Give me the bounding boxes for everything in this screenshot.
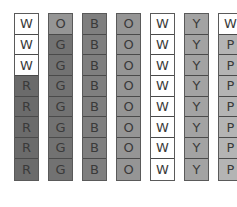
grid-cell: W <box>151 35 174 56</box>
grid-column-5: WWWWWWWW <box>150 13 175 181</box>
grid-cell: G <box>49 159 72 180</box>
grid-cell: Y <box>185 138 208 159</box>
grid-column-2: OGGGGGGG <box>48 13 73 181</box>
grid-cell: W <box>151 55 174 76</box>
grid-cell: B <box>83 97 106 118</box>
grid-column-7: WPPPPPPP <box>218 13 237 181</box>
grid-cell: W <box>219 14 237 35</box>
grid-cell: O <box>117 138 140 159</box>
grid-cell: P <box>219 97 237 118</box>
grid-cell: B <box>83 55 106 76</box>
grid-cell: B <box>83 138 106 159</box>
grid-cell: R <box>15 97 38 118</box>
grid-cell: B <box>83 14 106 35</box>
grid-cell: P <box>219 159 237 180</box>
grid-cell: W <box>151 138 174 159</box>
grid-cell: P <box>219 35 237 56</box>
grid-cell: O <box>117 76 140 97</box>
grid-cell: P <box>219 138 237 159</box>
grid-cell: G <box>49 97 72 118</box>
grid-cell: W <box>151 117 174 138</box>
grid-cell: Y <box>185 55 208 76</box>
grid-cell: R <box>15 159 38 180</box>
grid-cell: W <box>15 55 38 76</box>
grid-cell: Y <box>185 35 208 56</box>
grid-cell: P <box>219 117 237 138</box>
grid-cell: Y <box>185 76 208 97</box>
grid-cell: W <box>151 14 174 35</box>
grid-cell: G <box>49 55 72 76</box>
grid-cell: O <box>117 14 140 35</box>
grid-cell: W <box>15 14 38 35</box>
grid-cell: O <box>117 55 140 76</box>
grid-cell: G <box>49 138 72 159</box>
grid-cell: W <box>151 159 174 180</box>
grid-cell: O <box>117 117 140 138</box>
grid-cell: B <box>83 117 106 138</box>
grid-cell: B <box>83 35 106 56</box>
grid-cell: W <box>151 97 174 118</box>
grid-cell: Y <box>185 14 208 35</box>
grid-cell: G <box>49 35 72 56</box>
grid-column-4: OOOOOOOO <box>116 13 141 181</box>
grid-cell: O <box>117 35 140 56</box>
grid-column-6: YYYYYYYY <box>184 13 209 181</box>
letter-grid: WWWRRRRROGGGGGGGBBBBBBBBOOOOOOOOWWWWWWWW… <box>14 13 237 181</box>
grid-cell: W <box>15 35 38 56</box>
grid-cell: W <box>151 76 174 97</box>
grid-cell: G <box>49 76 72 97</box>
grid-cell: O <box>117 159 140 180</box>
grid-cell: P <box>219 76 237 97</box>
grid-column-1: WWWRRRRR <box>14 13 39 181</box>
grid-cell: Y <box>185 159 208 180</box>
grid-cell: Y <box>185 97 208 118</box>
grid-cell: B <box>83 76 106 97</box>
grid-cell: G <box>49 117 72 138</box>
grid-cell: O <box>117 97 140 118</box>
grid-cell: B <box>83 159 106 180</box>
grid-cell: R <box>15 138 38 159</box>
grid-column-3: BBBBBBBB <box>82 13 107 181</box>
grid-cell: Y <box>185 117 208 138</box>
grid-cell: P <box>219 55 237 76</box>
grid-cell: R <box>15 117 38 138</box>
grid-cell: R <box>15 76 38 97</box>
grid-cell: O <box>49 14 72 35</box>
